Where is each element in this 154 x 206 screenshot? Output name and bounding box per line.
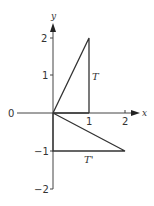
x-axis-label: x [142, 108, 147, 118]
x-axis-arrow-icon [131, 110, 140, 116]
y-tick-label-1: 1 [42, 70, 48, 81]
y-tick-label-neg1: −1 [34, 146, 49, 157]
y-tick-label-2: 2 [41, 33, 47, 44]
x-tick-label-2: 2 [122, 116, 128, 127]
y-axis-label: y [50, 11, 57, 21]
y-tick-label-neg2: −2 [34, 184, 49, 195]
y-axis-arrow-icon [50, 23, 56, 32]
triangle-t-label: T [92, 71, 100, 82]
triangle-t-prime-label: T' [84, 154, 93, 165]
x-tick-label-1: 1 [86, 116, 92, 127]
triangle-t [53, 38, 89, 113]
y-tick-label-0: 0 [8, 108, 14, 119]
coordinate-diagram: y x 2 1 0 −1 −2 1 2 T T' [0, 0, 154, 206]
